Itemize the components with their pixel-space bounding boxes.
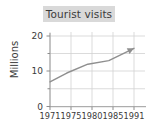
x-tick-label-1985: 1985: [103, 111, 124, 121]
x-tick-label-1971: 1971: [40, 111, 61, 121]
chart-figure: Tourist visits Millions 20 10 0: [0, 0, 156, 132]
x-tick-label-1980: 1980: [82, 111, 103, 121]
y-tick-label-20: 20: [32, 31, 44, 41]
chart-plot-area: 20 10 0 1971 1975 1980 1985 1991: [0, 0, 156, 132]
x-tick-label-1991: 1991: [124, 111, 145, 121]
y-tick-label-0: 0: [37, 102, 43, 112]
y-tick-label-10: 10: [32, 66, 44, 76]
x-tick-label-1975: 1975: [61, 111, 82, 121]
